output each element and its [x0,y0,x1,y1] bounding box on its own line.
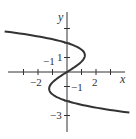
x-tick-label-neg1: −1 [43,55,55,67]
y-tick-label-1: 1 [57,51,63,63]
y-tick-label-neg3: −3 [50,109,62,121]
x-tick-label-2: 2 [92,76,98,88]
y-tick-label-neg1: −1 [71,81,83,93]
x-tick-label-neg2: −2 [30,76,42,88]
plot: y x −2 2 −1 1 −1 −3 [0,0,136,139]
x-axis-label: x [119,72,126,86]
y-axis-label: y [57,10,64,24]
